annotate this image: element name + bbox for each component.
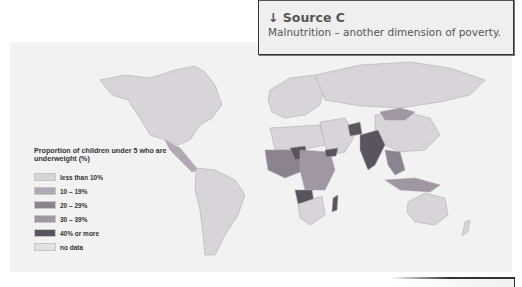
legend-label: no data xyxy=(60,244,83,251)
legend-item: no data xyxy=(34,240,174,254)
legend-item: 40% or more xyxy=(34,226,174,240)
legend-item: 20 – 29% xyxy=(34,198,174,212)
box-edge-fade xyxy=(390,277,450,279)
legend-swatch xyxy=(34,201,56,209)
legend-label: less than 10% xyxy=(60,174,103,181)
region-europe xyxy=(268,75,325,118)
legend-swatch xyxy=(34,229,56,237)
legend-label: 30 – 39% xyxy=(60,216,87,223)
legend-swatch xyxy=(34,187,56,195)
region-new-zealand xyxy=(462,220,470,236)
legend-label: 20 – 29% xyxy=(60,202,87,209)
source-subtitle: Malnutrition – another dimension of pove… xyxy=(268,25,513,39)
region-madagascar xyxy=(332,195,338,212)
region-australia xyxy=(407,193,448,225)
region-south-america xyxy=(195,168,245,255)
region-southeast-asia xyxy=(385,150,405,175)
legend-swatch xyxy=(34,243,56,251)
region-north-africa xyxy=(270,125,325,150)
legend-swatch xyxy=(34,215,56,223)
region-afghanistan xyxy=(348,122,362,136)
legend-label: 10 – 19% xyxy=(60,188,87,195)
legend-swatch xyxy=(34,173,56,181)
source-caption-box: ↓ Source C Malnutrition – another dimens… xyxy=(258,0,514,55)
legend-title: Proportion of children under 5 who are u… xyxy=(34,147,174,163)
legend-label: 40% or more xyxy=(60,230,99,237)
region-russia xyxy=(315,62,485,108)
source-title: ↓ Source C xyxy=(268,11,513,25)
region-north-america xyxy=(100,66,222,145)
legend-item: 30 – 39% xyxy=(34,212,174,226)
legend-item: 10 – 19% xyxy=(34,184,174,198)
legend-item: less than 10% xyxy=(34,170,174,184)
region-indonesia xyxy=(385,178,440,192)
map-legend: Proportion of children under 5 who are u… xyxy=(34,147,174,254)
